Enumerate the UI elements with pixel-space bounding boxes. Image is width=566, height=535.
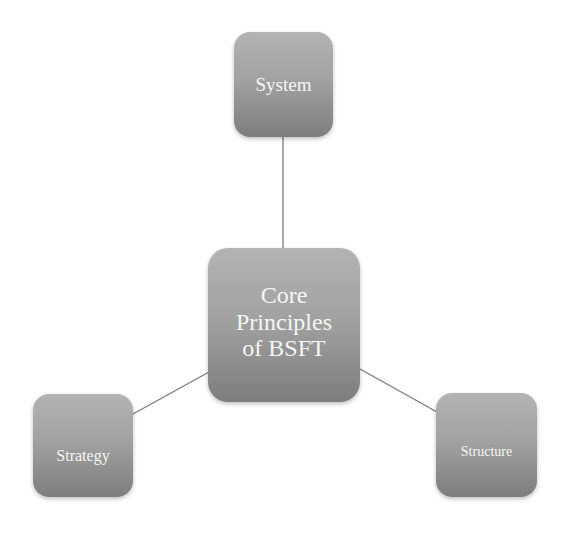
node-core-principles: Core Principles of BSFT [208, 248, 360, 402]
node-system-label: System [256, 74, 312, 95]
node-system: System [234, 32, 333, 137]
node-structure-label: Structure [461, 444, 512, 460]
node-strategy-label: Strategy [56, 447, 109, 465]
connector-core-strategy [133, 372, 209, 414]
node-strategy: Strategy [33, 394, 133, 497]
node-core-label-line-1: Core [236, 282, 332, 309]
node-structure: Structure [436, 393, 537, 497]
node-core-label-line-3: of BSFT [236, 335, 332, 362]
node-core-label: Core Principles of BSFT [236, 282, 332, 363]
node-core-label-line-2: Principles [236, 309, 332, 336]
connector-core-structure [360, 369, 437, 412]
